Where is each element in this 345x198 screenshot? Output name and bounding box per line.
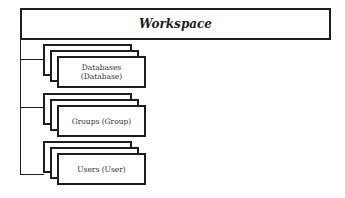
users-collection-node: Users (User)	[43, 141, 147, 185]
stack-card-front: Databases(Database)	[57, 56, 146, 88]
stack-card-front: Groups (Group)	[57, 105, 146, 137]
branch-line-groups	[20, 107, 44, 108]
branch-line-databases	[20, 59, 44, 60]
stack-card-front: Users (User)	[57, 153, 146, 185]
groups-collection-node: Groups (Group)	[43, 93, 147, 137]
databases-collection-node: Databases(Database)	[43, 44, 147, 88]
users-label: Users (User)	[77, 165, 125, 174]
groups-label: Groups (Group)	[72, 117, 132, 126]
workspace-label: Workspace	[139, 17, 212, 31]
workspace-node: Workspace	[20, 8, 331, 40]
branch-line-users	[20, 174, 44, 175]
databases-label: Databases(Database)	[81, 63, 122, 81]
